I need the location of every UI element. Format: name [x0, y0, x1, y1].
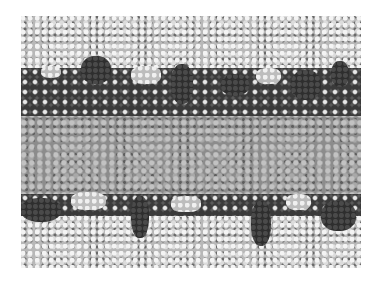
headgroup-cluster — [131, 196, 149, 238]
headgroup-cluster — [291, 70, 321, 100]
water-intrusion — [286, 194, 311, 210]
headgroup-cluster — [321, 201, 356, 231]
bilayer-simulation-image — [21, 16, 361, 268]
lower-water-layer — [21, 216, 361, 268]
headgroup-cluster — [221, 74, 249, 96]
water-intrusion — [131, 66, 161, 84]
water-intrusion — [171, 196, 201, 212]
headgroup-cluster — [251, 201, 271, 246]
water-intrusion — [71, 192, 106, 210]
water-intrusion — [256, 68, 281, 84]
hydrocarbon-tail-core — [21, 104, 361, 204]
headgroup-cluster — [81, 56, 111, 84]
water-intrusion — [41, 66, 61, 78]
headgroup-cluster — [331, 61, 349, 87]
headgroup-cluster — [21, 198, 61, 222]
headgroup-cluster — [171, 64, 193, 104]
